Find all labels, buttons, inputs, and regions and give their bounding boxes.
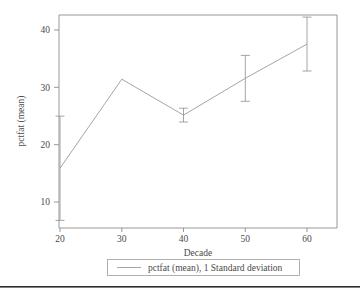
x-tick-marks: [60, 228, 307, 232]
x-tick-label-30: 30: [117, 234, 127, 244]
y-tick-labels: 10 20 30 40: [41, 25, 51, 207]
chart-legend: pctfat (mean), 1 Standard deviation: [108, 260, 300, 276]
error-bar-20: [56, 116, 65, 220]
y-tick-label-40: 40: [41, 25, 51, 35]
x-tick-label-40: 40: [179, 234, 189, 244]
footer-divider: [0, 286, 360, 288]
y-tick-label-30: 30: [41, 83, 51, 93]
y-tick-label-20: 20: [41, 140, 51, 150]
x-axis-title: Decade: [184, 248, 212, 258]
x-tick-label-20: 20: [55, 234, 65, 244]
plot-frame: [59, 15, 337, 228]
x-tick-labels: 20 30 40 50 60: [55, 234, 312, 244]
y-tick-label-10: 10: [41, 197, 51, 207]
chart-canvas: 10 20 30 40 20 30 40 50 60: [0, 0, 360, 291]
series-line-pctfat-mean: [60, 44, 307, 168]
legend-entry-label: pctfat (mean), 1 Standard deviation: [148, 263, 283, 274]
x-tick-label-60: 60: [302, 234, 312, 244]
chart-figure: 10 20 30 40 20 30 40 50 60: [0, 0, 360, 291]
error-bar-60: [303, 17, 312, 71]
y-axis-title: pctfat (mean): [16, 96, 27, 147]
x-tick-label-50: 50: [241, 234, 251, 244]
